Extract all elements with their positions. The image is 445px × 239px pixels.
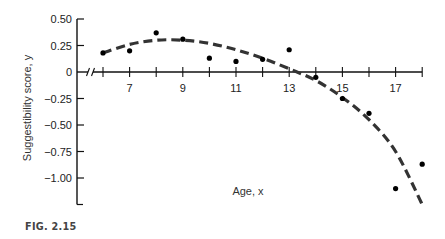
- data-point: [154, 30, 159, 35]
- data-point: [100, 50, 105, 55]
- y-tick-label: −1.00: [44, 172, 72, 184]
- data-point: [420, 162, 425, 167]
- axis-break-icon: [87, 68, 95, 76]
- y-axis-ticks: 0.500.250−0.25−0.50−0.75−1.00: [44, 13, 84, 184]
- data-point: [340, 96, 345, 101]
- x-tick-label: 13: [283, 82, 295, 94]
- fitted-curve: [103, 40, 422, 205]
- data-points: [100, 30, 424, 191]
- y-tick-label: −0.50: [44, 119, 72, 131]
- x-tick-label: 17: [389, 82, 401, 94]
- x-tick-label: 7: [127, 82, 133, 94]
- y-tick-label: 0: [66, 66, 72, 78]
- x-tick-label: 15: [336, 82, 348, 94]
- data-point: [127, 48, 132, 53]
- data-point: [313, 75, 318, 80]
- figure-caption: FIG. 2.15: [25, 220, 76, 233]
- x-tick-label: 11: [230, 82, 241, 94]
- y-tick-label: 0.25: [51, 40, 72, 52]
- data-point: [233, 59, 238, 64]
- y-axis-title: Suggestibility score, y: [21, 54, 33, 161]
- x-tick-label: 9: [180, 82, 186, 94]
- data-point: [180, 37, 185, 42]
- y-tick-label: 0.50: [51, 13, 72, 25]
- x-axis-title: Age, x: [232, 185, 264, 197]
- y-tick-label: −0.75: [44, 146, 72, 158]
- y-tick-label: −0.25: [44, 93, 72, 105]
- scatter-chart: 0.500.250−0.25−0.50−0.75−1.00 7911131517…: [0, 0, 445, 239]
- data-point: [287, 47, 292, 52]
- data-point: [260, 57, 265, 62]
- data-point: [207, 56, 212, 61]
- data-point: [393, 186, 398, 191]
- data-point: [366, 111, 371, 116]
- x-axis-ticks: 7911131517: [103, 67, 422, 94]
